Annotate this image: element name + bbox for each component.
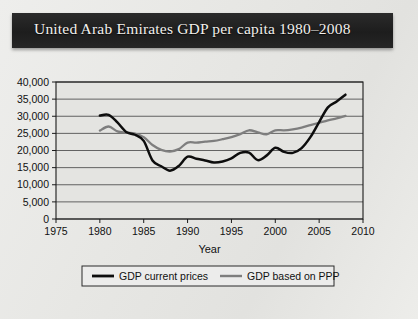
y-tick-label: 20,000 [17,144,49,156]
page-title: United Arab Emirates GDP per capita 1980… [34,20,351,38]
y-tick-label: 40,000 [17,76,49,88]
x-axis-title: Year [198,243,221,255]
chart-legend: GDP current pricesGDP based on PPP [82,266,340,286]
x-tick-label: 2005 [307,225,331,237]
x-tick-label: 2000 [264,225,288,237]
gdp-line-chart: 05,00010,00015,00020,00025,00030,00035,0… [0,52,418,319]
chart-container: 05,00010,00015,00020,00025,00030,00035,0… [0,52,418,319]
y-tick-label: 25,000 [17,127,49,139]
y-axis-ticks: 05,00010,00015,00020,00025,00030,00035,0… [17,76,56,225]
legend-label: GDP based on PPP [247,270,340,282]
x-axis-ticks: 19751980198519901995200020052010 [44,219,375,237]
y-tick-label: 15,000 [17,161,49,173]
y-tick-label: 10,000 [17,178,49,190]
x-tick-label: 1980 [88,225,112,237]
y-tick-label: 30,000 [17,110,49,122]
legend-label: GDP current prices [119,270,208,282]
x-tick-label: 1985 [132,225,156,237]
y-tick-label: 0 [43,213,49,225]
x-tick-label: 1975 [44,225,68,237]
y-tick-label: 5,000 [23,196,49,208]
x-tick-label: 1990 [176,225,200,237]
chart-title-bar: United Arab Emirates GDP per capita 1980… [12,13,393,48]
y-tick-label: 35,000 [17,93,49,105]
x-tick-label: 2010 [351,225,375,237]
x-tick-label: 1995 [220,225,244,237]
